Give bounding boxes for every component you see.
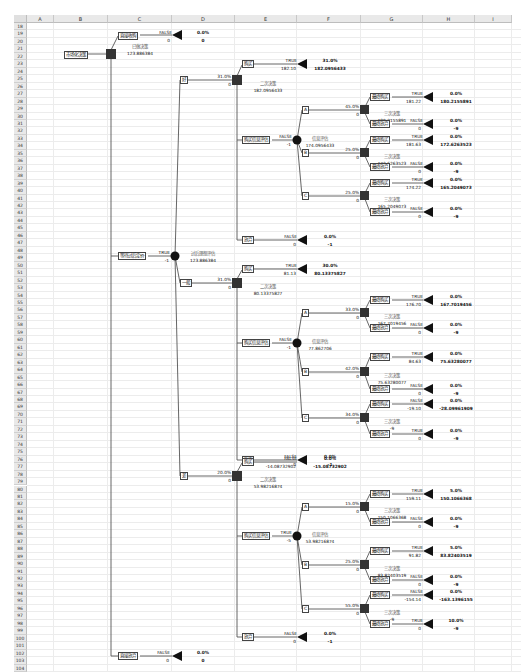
state-mid-outcome-b[interactable]: B — [302, 368, 309, 376]
state-mid-label[interactable]: 一般 — [180, 279, 192, 287]
branch-direct-drop[interactable]: 直接放弃 — [118, 652, 138, 660]
state-high-giveup-value: -1 — [328, 242, 333, 247]
state-high-a-final-buy[interactable]: 最终购买 — [370, 93, 390, 101]
state-low-giveup-prob: 0.0% — [324, 631, 336, 636]
state-mid-research-cost: -1 — [287, 345, 291, 350]
spreadsheet: A B C D E F G H I 1819202122232425262728… — [0, 0, 521, 672]
state-high-outcome-c-prob: 25.0% — [345, 190, 359, 195]
state-mid-buy-value: 80.13375827 — [314, 271, 346, 276]
state-high-outcome-b-prob: 25.0% — [345, 147, 359, 152]
state-low-a-final-buy-flag: TRUE — [412, 488, 423, 493]
state-high-buy-value: 182.0956433 — [314, 66, 346, 71]
state-low-a-final-drop-value: -9 — [454, 524, 459, 529]
state-low-buy-prob: 0.0% — [324, 456, 336, 461]
state-mid-b-final-buy[interactable]: 最终购买 — [370, 353, 390, 361]
state-mid-buy-option[interactable]: 购买 — [242, 265, 254, 273]
top-decision-name: 已做决策 — [132, 44, 148, 49]
state-high-outcome-a-decision-name: 三次决策 — [384, 111, 400, 116]
state-mid-b-final-drop[interactable]: 最终放弃 — [370, 385, 390, 393]
state-high-outcome-c[interactable]: C — [302, 192, 309, 200]
state-low-c-final-drop[interactable]: 最终放弃 — [370, 620, 390, 628]
state-low-giveup-cost: 0 — [293, 639, 296, 644]
state-mid-cost: 0 — [228, 285, 231, 290]
state-high-label[interactable]: 好 — [180, 76, 188, 84]
state-high-buy-prob: 31.0% — [323, 58, 338, 63]
state-low-outcome-c-decision-name: 三次决策 — [384, 610, 400, 615]
state-low-buy-option[interactable]: 购买 — [242, 458, 254, 466]
state-low-buy-value: -15.08732902 — [313, 464, 346, 469]
state-high-outcome-a-prob: 45.0% — [345, 104, 359, 109]
state-high-b-final-buy-cost: 181.63 — [406, 142, 421, 147]
state-high-giveup-option[interactable]: 放弃 — [242, 236, 254, 244]
state-mid-b-final-buy-flag: TRUE — [412, 351, 423, 356]
state-low-research-option[interactable]: 购买信息评估 — [242, 532, 270, 540]
state-high-decision-value: 182.0956433 — [254, 88, 283, 93]
state-mid-c-final-buy[interactable]: 最终购买 — [370, 400, 390, 408]
state-low-b-final-drop-cost: 0 — [418, 582, 421, 587]
state-mid-outcome-a-decision-name: 三次决策 — [384, 314, 400, 319]
state-low-b-final-buy[interactable]: 最终购买 — [370, 547, 390, 555]
top-decision-value: 123.886384 — [127, 51, 153, 56]
state-mid-research-chance-name: 信息评估 — [312, 339, 328, 344]
state-low-prob: 20.0% — [217, 470, 231, 475]
state-high-b-final-buy-flag: TRUE — [412, 134, 423, 139]
state-high-giveup-prob: 0.0% — [324, 234, 336, 239]
state-high-c-final-drop-flag: FALSE — [410, 206, 423, 211]
state-low-a-final-buy-prob: 5.0% — [450, 488, 462, 493]
state-mid-decision-value: 80.13375827 — [254, 291, 283, 296]
state-high-c-final-buy[interactable]: 最终购买 — [370, 179, 390, 187]
branch-direct-buy[interactable]: 直接收购 — [118, 32, 138, 40]
state-mid-c-final-drop[interactable]: 最终放弃 — [370, 430, 390, 438]
state-mid-b-final-drop-cost: 0 — [418, 391, 421, 396]
state-high-b-final-drop-prob: 0.0% — [450, 161, 462, 166]
state-low-research-cost: -5 — [287, 538, 291, 543]
state-mid-research-option[interactable]: 购买信息评估 — [242, 339, 270, 347]
state-low-a-final-drop-flag: FALSE — [410, 516, 423, 521]
state-low-research-flag: TRUE — [281, 530, 292, 535]
state-mid-b-final-buy-value: 75.63280077 — [440, 359, 472, 364]
state-high-buy-option[interactable]: 购买 — [242, 60, 254, 68]
state-high-b-final-drop[interactable]: 最终放弃 — [370, 163, 390, 171]
decision-node-root — [106, 49, 116, 59]
state-low-outcome-a[interactable]: A — [302, 503, 309, 511]
state-mid-prob: 31.0% — [217, 277, 231, 282]
state-mid-buy-prob: 30.0% — [323, 263, 338, 268]
state-high-outcome-a[interactable]: A — [302, 106, 309, 114]
state-low-outcome-b[interactable]: B — [302, 561, 309, 569]
state-low-a-final-drop[interactable]: 最终放弃 — [370, 518, 390, 526]
state-low-b-final-drop-prob: 0.0% — [450, 574, 462, 579]
state-low-a-final-buy[interactable]: 最终购买 — [370, 490, 390, 498]
state-low-outcome-c[interactable]: C — [302, 605, 309, 613]
state-mid-outcome-a[interactable]: A — [302, 309, 309, 317]
state-low-c-final-buy[interactable]: 最终购买 — [370, 591, 390, 599]
state-high-research-option[interactable]: 购买信息评估 — [242, 136, 270, 144]
state-mid-c-final-buy-cost: -19.10 — [407, 406, 421, 411]
state-low-c-final-buy-prob: 0.0% — [450, 589, 462, 594]
state-high-cost: 0 — [228, 82, 231, 87]
state-mid-a-final-buy[interactable]: 最终购买 — [370, 296, 390, 304]
state-high-research-cost: -1 — [287, 142, 291, 147]
state-low-outcome-c-prob: 55.0% — [345, 603, 359, 608]
state-mid-a-final-drop[interactable]: 最终放弃 — [370, 324, 390, 332]
state-low-cost: 0 — [228, 478, 231, 483]
state-low-giveup-option[interactable]: 放弃 — [242, 633, 254, 641]
state-low-label[interactable]: 差 — [180, 472, 188, 480]
state-low-b-final-drop[interactable]: 最终放弃 — [370, 576, 390, 584]
state-high-b-final-buy[interactable]: 最终购买 — [370, 136, 390, 144]
state-mid-outcome-c[interactable]: C — [302, 414, 309, 422]
branch-direct-drop-prob: 0.0% — [197, 650, 209, 655]
state-low-b-final-buy-prob: 5.0% — [450, 545, 462, 550]
state-low-b-final-buy-value: 83.82403519 — [440, 553, 472, 558]
branch-wait[interactable]: 等待过后定价 — [118, 252, 146, 260]
state-high-outcome-b[interactable]: B — [302, 149, 309, 157]
root-node-label[interactable]: 市场化决策 — [64, 51, 88, 59]
state-low-b-final-drop-value: -9 — [454, 582, 459, 587]
state-high-buy-flag: TRUE — [286, 58, 297, 63]
state-high-c-final-drop[interactable]: 最终放弃 — [370, 208, 390, 216]
state-low-outcome-b-cost: 0 — [356, 567, 359, 572]
state-high-a-final-drop[interactable]: 最终放弃 — [370, 120, 390, 128]
state-low-c-final-drop-flag: TRUE — [412, 618, 423, 623]
state-low-outcome-b-decision-name: 三次决策 — [384, 566, 400, 571]
state-high-c-final-buy-cost: 174.22 — [406, 185, 421, 190]
state-low-c-final-drop-value: -9 — [454, 626, 459, 631]
